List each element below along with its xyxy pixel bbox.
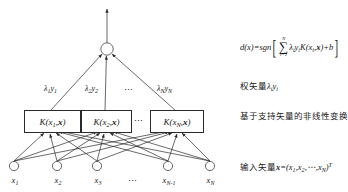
output-node-circle bbox=[101, 43, 113, 55]
sum-lower-limit: i=1 bbox=[280, 52, 287, 57]
input-node-3 bbox=[92, 161, 101, 170]
input-node-1 bbox=[9, 161, 18, 170]
input-ellipsis: ⋯ bbox=[128, 176, 138, 186]
weight-vector-math: λiyi bbox=[267, 81, 278, 91]
nonlinear-transform-annotation: 基于支持矢量的非线性变换 bbox=[240, 109, 348, 121]
kernel-node-2[interactable]: K(x2,x) bbox=[81, 110, 132, 133]
decision-function-body: λiyiK(xi,x)+b bbox=[289, 42, 333, 52]
kernel-node-2-label: K(x2,x) bbox=[94, 117, 120, 127]
kernel-node-3-label: K(xN,x) bbox=[163, 117, 190, 127]
input-node-4 bbox=[163, 161, 172, 170]
input-label-4: xN-1 bbox=[157, 175, 181, 185]
edge-kernel3-output bbox=[112, 54, 175, 110]
input-label-2: x2 bbox=[50, 175, 66, 185]
bracket-open: [ bbox=[273, 37, 277, 57]
decision-function-lhs: d(x)=sgn bbox=[240, 42, 271, 52]
input-label-5: xN bbox=[202, 175, 219, 185]
edge-kernel2-output bbox=[105, 56, 106, 110]
summation: N ∑ i=1 bbox=[279, 36, 288, 57]
weight-ellipsis: ⋯ bbox=[124, 85, 134, 95]
weight-vector-annotation: 权矢量λiyi bbox=[240, 79, 278, 91]
weight-vector-text: 权矢量 bbox=[240, 81, 267, 91]
edge-in4-k2 bbox=[110, 133, 168, 161]
input-node-2 bbox=[52, 161, 61, 170]
edge-in1-k2 bbox=[14, 132, 97, 161]
input-vector-text: 输入矢量 bbox=[240, 162, 276, 172]
edge-in3-k2 bbox=[97, 134, 104, 161]
input-vector-annotation: 输入矢量x=(x1,x2,⋯,xN)T bbox=[240, 160, 332, 172]
edge-in3-k3 bbox=[97, 133, 172, 161]
input-label-1: x1 bbox=[7, 175, 23, 185]
kernel-node-1-label: K(x1,x) bbox=[40, 117, 66, 127]
kernel-node-1[interactable]: K(x1,x) bbox=[24, 110, 81, 133]
edge-in4-k3 bbox=[168, 134, 177, 161]
edge-kernel1-output bbox=[51, 54, 102, 110]
input-label-3: x3 bbox=[90, 175, 106, 185]
weight-label-3: λNyN bbox=[157, 84, 172, 93]
bracket-close: ] bbox=[335, 37, 339, 57]
decision-function-formula: d(x)=sgn [ N ∑ i=1 λiyiK(xi,x)+b ] bbox=[240, 36, 340, 57]
weight-label-2: λ2y2 bbox=[85, 84, 98, 93]
edge-in5-k1 bbox=[61, 132, 210, 162]
weight-label-1: λ1y1 bbox=[44, 84, 57, 93]
kernel-node-3[interactable]: K(xN,x) bbox=[150, 110, 204, 133]
kernel-ellipsis: ⋯ bbox=[134, 116, 144, 126]
input-vector-math: x=(x1,x2,⋯,xN)T bbox=[276, 162, 332, 172]
input-node-5 bbox=[205, 161, 214, 170]
sum-symbol: ∑ bbox=[279, 41, 288, 52]
edge-in1-k1 bbox=[14, 133, 44, 161]
